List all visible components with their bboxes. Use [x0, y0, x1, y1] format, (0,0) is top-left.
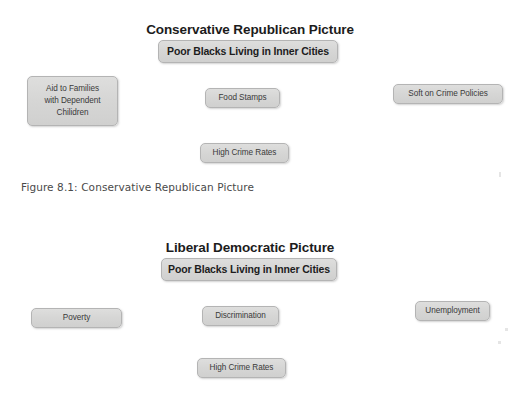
node-poor-blacks-inner-cities[interactable]: Poor Blacks Living in Inner Cities	[161, 258, 337, 281]
node-food-stamps[interactable]: Food Stamps	[205, 88, 280, 108]
page-mid-edge-artifact	[20, 196, 180, 204]
scan-speck	[505, 328, 508, 331]
node-discrimination[interactable]: Discrimination	[202, 306, 279, 326]
scan-speck	[498, 341, 501, 344]
node-soft-on-crime-policies[interactable]: Soft on Crime Policies	[393, 84, 503, 104]
node-poor-blacks-inner-cities[interactable]: Poor Blacks Living in Inner Cities	[158, 40, 338, 63]
scanned-page: Conservative Republican Picture Poor Bla…	[0, 0, 523, 405]
node-line: Chilidren	[57, 107, 89, 119]
node-poverty[interactable]: Poverty	[31, 308, 122, 328]
node-aid-to-families[interactable]: Aid to Families with Dependent Chilidren	[27, 76, 118, 126]
node-high-crime-rates[interactable]: High Crime Rates	[200, 143, 289, 163]
diagram-conservative-republican: Conservative Republican Picture Poor Bla…	[0, 0, 523, 205]
scan-speck	[499, 172, 501, 177]
diagram-title-conservative: Conservative Republican Picture	[140, 22, 360, 37]
diagram-title-liberal: Liberal Democratic Picture	[150, 240, 350, 255]
node-unemployment[interactable]: Unemployment	[415, 301, 490, 321]
node-high-crime-rates[interactable]: High Crime Rates	[197, 358, 286, 378]
diagram-liberal-democratic: Liberal Democratic Picture Poor Blacks L…	[0, 225, 523, 405]
node-line: with Dependent	[44, 95, 100, 107]
figure-caption-8-1: Figure 8.1: Conservative Republican Pict…	[21, 181, 254, 193]
node-line: Aid to Families	[46, 83, 99, 95]
